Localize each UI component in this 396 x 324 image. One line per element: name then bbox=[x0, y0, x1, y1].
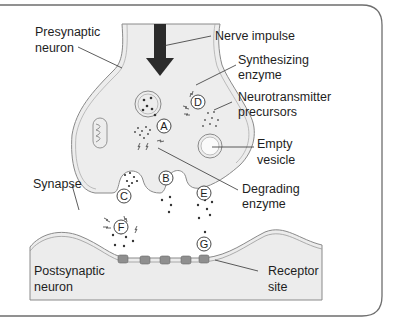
step-f: F bbox=[114, 220, 128, 234]
svg-text:Postsynaptic: Postsynaptic bbox=[34, 264, 105, 278]
empty-vesicle bbox=[198, 134, 222, 158]
label-degrading-enzyme: Degrading enzyme bbox=[242, 182, 300, 211]
svg-text:site: site bbox=[268, 280, 288, 294]
step-e: E bbox=[197, 186, 211, 200]
label-neurotransmitter-precursors: Neurotransmitter precursors bbox=[238, 90, 331, 119]
svg-text:Degrading: Degrading bbox=[242, 182, 300, 196]
step-g: G bbox=[197, 237, 211, 251]
step-a: A bbox=[157, 119, 171, 133]
svg-text:Neurotransmitter: Neurotransmitter bbox=[238, 90, 331, 104]
svg-text:Synthesizing: Synthesizing bbox=[238, 53, 309, 67]
fusing-vesicle-dots bbox=[124, 172, 138, 187]
svg-text:G: G bbox=[200, 238, 209, 250]
label-empty-vesicle: Empty vesicle bbox=[257, 137, 295, 167]
svg-text:enzyme: enzyme bbox=[238, 68, 282, 82]
label-presynaptic-neuron: Presynaptic neuron bbox=[35, 25, 100, 55]
label-nerve-impulse: Nerve impulse bbox=[215, 29, 295, 43]
svg-text:E: E bbox=[200, 187, 207, 199]
svg-text:D: D bbox=[194, 96, 202, 108]
svg-text:A: A bbox=[160, 120, 168, 132]
label-synapse: Synapse bbox=[33, 177, 82, 191]
svg-text:F: F bbox=[118, 221, 125, 233]
svg-text:neuron: neuron bbox=[35, 41, 74, 55]
svg-text:Receptor: Receptor bbox=[268, 264, 319, 278]
svg-text:C: C bbox=[120, 190, 128, 202]
svg-text:vesicle: vesicle bbox=[257, 153, 295, 167]
svg-text:enzyme: enzyme bbox=[242, 197, 286, 211]
svg-text:neuron: neuron bbox=[34, 280, 73, 294]
step-b: B bbox=[159, 171, 173, 185]
label-synthesizing-enzyme: Synthesizing enzyme bbox=[238, 53, 309, 82]
svg-text:precursors: precursors bbox=[238, 105, 297, 119]
step-d: D bbox=[191, 95, 205, 109]
step-c: C bbox=[117, 189, 131, 203]
svg-text:Nerve impulse: Nerve impulse bbox=[215, 29, 295, 43]
synapse-diagram: A B C D E F G Presynaptic neuron Nerve i… bbox=[0, 0, 396, 324]
svg-text:Empty: Empty bbox=[257, 137, 293, 151]
svg-text:Presynaptic: Presynaptic bbox=[35, 25, 100, 39]
svg-text:B: B bbox=[162, 172, 169, 184]
svg-text:Synapse: Synapse bbox=[33, 177, 82, 191]
